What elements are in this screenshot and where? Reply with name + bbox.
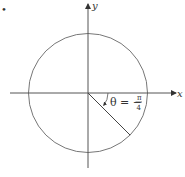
x-axis-label: x (177, 88, 183, 99)
unit-circle-diagram: • x y θ = − π 4 (0, 0, 185, 177)
corner-marker: • (1, 4, 7, 15)
angle-denominator: 4 (137, 104, 142, 112)
angle-numerator: π (137, 94, 142, 102)
angle-arc-arrow (104, 93, 108, 105)
y-axis-label: y (91, 0, 98, 11)
